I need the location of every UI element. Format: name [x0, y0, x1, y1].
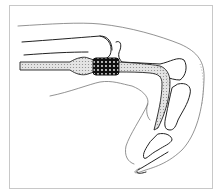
distal-phalanx: [143, 133, 172, 158]
metacarpal-head: [100, 36, 111, 60]
tendon-weave-junction: [93, 58, 119, 75]
proximal-phalanx: [116, 41, 186, 80]
finger-volar-outline: [125, 104, 148, 164]
metacarpal-volar: [24, 52, 88, 55]
palm-volar-outline: [50, 81, 150, 120]
metacarpal-dorsal: [22, 36, 112, 50]
finger-illustration: [0, 0, 219, 196]
tendon-graft-proximal: [20, 57, 94, 75]
tendon-graft-distal: [119, 62, 170, 130]
fingertip-outline: [137, 152, 168, 173]
